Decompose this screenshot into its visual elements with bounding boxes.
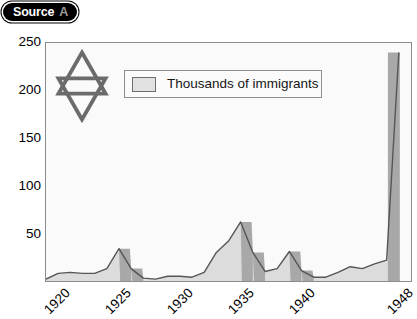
chart-legend: Thousands of immigrants bbox=[124, 70, 322, 98]
area-shade-segment bbox=[253, 252, 265, 281]
x-axis: 192019251930193519401948 bbox=[45, 284, 412, 319]
x-axis-tick-label: 1940 bbox=[287, 286, 318, 317]
y-axis-tick-label: 100 bbox=[1, 179, 41, 193]
y-axis-tick-label: 150 bbox=[1, 131, 41, 145]
source-badge-letter: A bbox=[59, 6, 68, 19]
y-axis-tick-label: 200 bbox=[1, 83, 41, 97]
x-axis-tick-label: 1935 bbox=[225, 286, 256, 317]
x-axis-tick-label: 1925 bbox=[103, 286, 134, 317]
star-of-david-glyph bbox=[44, 48, 120, 124]
legend-label-immigrants: Thousands of immigrants bbox=[167, 77, 319, 91]
y-axis-tick-label: 250 bbox=[1, 35, 41, 49]
immigration-area-chart: 50100150200250 Thousands of immigrants 1… bbox=[0, 26, 417, 309]
y-axis: 50100150200250 bbox=[0, 42, 41, 282]
area-shade-segment bbox=[241, 222, 253, 281]
source-badge: Source A bbox=[3, 3, 77, 21]
star-of-david-icon bbox=[44, 48, 120, 124]
y-axis-tick-label: 50 bbox=[1, 227, 41, 241]
x-axis-tick-label: 1930 bbox=[164, 286, 195, 317]
area-shade-spike bbox=[388, 53, 400, 281]
x-axis-tick-label: 1920 bbox=[42, 286, 73, 317]
x-axis-tick-label: 1948 bbox=[385, 286, 416, 317]
area-shade-segment bbox=[289, 251, 301, 281]
source-badge-label: Source bbox=[13, 6, 54, 19]
legend-swatch-immigrants bbox=[132, 77, 156, 92]
